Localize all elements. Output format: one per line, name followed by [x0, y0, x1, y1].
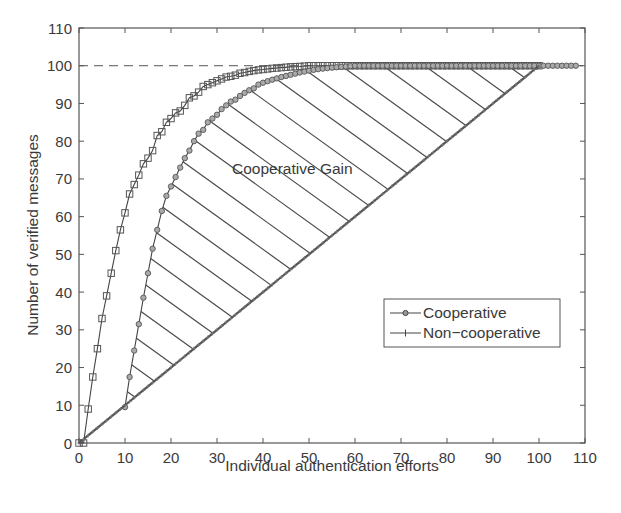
x-tick-label: 110: [573, 449, 597, 466]
circle-marker-icon: [141, 295, 146, 300]
x-tick-label: 10: [117, 449, 134, 466]
y-tick-label: 60: [55, 208, 72, 225]
circle-marker-icon: [164, 193, 169, 198]
y-tick-label: 80: [55, 133, 72, 150]
circle-marker-icon: [150, 246, 155, 251]
circle-marker-icon: [182, 155, 187, 160]
x-tick-label: 0: [75, 449, 83, 466]
circle-marker-icon: [159, 208, 164, 213]
circle-marker-icon: [178, 165, 183, 170]
series-circle: [122, 63, 578, 410]
chart: 0102030405060708090100110010203040506070…: [0, 0, 621, 513]
circle-marker-icon: [205, 120, 210, 125]
hatch-line: [0, 330, 621, 513]
hatch-line: [0, 360, 621, 513]
x-tick-label: 30: [209, 449, 226, 466]
circle-marker-icon: [214, 112, 219, 117]
circle-marker-icon: [196, 131, 201, 136]
legend-label-non-cooperative: Non−cooperative: [423, 324, 541, 341]
y-tick-label: 10: [55, 397, 72, 414]
y-axis-title: Number of verified messages: [24, 134, 41, 336]
circle-marker-icon: [155, 227, 160, 232]
circle-marker-icon: [136, 321, 141, 326]
y-tick-label: 90: [55, 95, 72, 112]
circle-marker-icon: [127, 374, 132, 379]
hatch-line: [0, 0, 621, 177]
circle-marker-icon: [201, 127, 206, 132]
circle-marker-icon: [210, 116, 215, 121]
y-tick-label: 50: [55, 246, 72, 263]
series-layer: [76, 63, 579, 447]
y-tick-label: 40: [55, 284, 72, 301]
hatch-region: [0, 0, 621, 513]
y-tick-label: 0: [64, 435, 72, 452]
series-plus: [77, 64, 541, 445]
circle-marker-icon: [191, 138, 196, 143]
hatch-line: [0, 60, 621, 507]
circle-marker-icon: [187, 148, 192, 153]
x-axis-title: Individual authentication efforts: [225, 457, 439, 474]
legend: Cooperative Non−cooperative: [384, 299, 560, 347]
circle-marker-icon: [224, 103, 229, 108]
circle-marker-icon: [573, 63, 578, 68]
y-tick-label: 110: [48, 20, 72, 37]
line-circle: [125, 66, 576, 407]
circle-marker-icon: [403, 310, 408, 315]
hatch-line: [0, 480, 621, 513]
x-tick-label: 20: [163, 449, 180, 466]
circle-marker-icon: [251, 86, 256, 91]
circle-marker-icon: [233, 97, 238, 102]
legend-label-cooperative: Cooperative: [423, 304, 507, 321]
y-tick-label: 20: [55, 359, 72, 376]
hatch-line: [0, 0, 621, 237]
x-tick-label: 90: [485, 449, 502, 466]
y-tick-label: 30: [55, 321, 72, 338]
circle-marker-icon: [219, 106, 224, 111]
circle-marker-icon: [173, 174, 178, 179]
circle-marker-icon: [132, 348, 137, 353]
annotation-cooperative-gain: Cooperative Gain: [232, 160, 353, 177]
circle-marker-icon: [168, 184, 173, 189]
y-tick-label: 100: [47, 57, 72, 74]
circle-marker-icon: [145, 271, 150, 276]
x-tick-label: 100: [526, 449, 551, 466]
y-tick-label: 70: [55, 170, 72, 187]
x-tick-label: 80: [439, 449, 456, 466]
